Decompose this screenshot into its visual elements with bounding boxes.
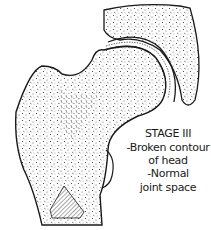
caption-line-1: -Broken contour bbox=[120, 141, 211, 154]
stage-title: STAGE III bbox=[120, 127, 211, 140]
femur-illustration bbox=[0, 0, 211, 230]
caption-line-3: -Normal bbox=[120, 167, 211, 180]
caption-line-2: of head bbox=[120, 154, 211, 167]
caption-line-4: joint space bbox=[120, 181, 211, 194]
femur-stage-diagram: STAGE III -Broken contour of head -Norma… bbox=[0, 0, 211, 230]
